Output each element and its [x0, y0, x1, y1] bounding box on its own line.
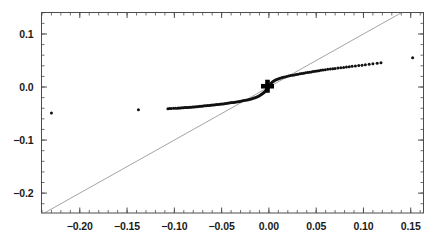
data-point-series — [50, 56, 414, 114]
x-tick-label: 0.00 — [259, 220, 279, 232]
data-point — [376, 62, 379, 65]
x-tick-label: −0.20 — [67, 220, 93, 232]
data-point — [357, 64, 360, 67]
y-tick-label: −0.1 — [0, 134, 34, 146]
data-point — [411, 56, 414, 59]
y-tick-label: −0.2 — [0, 187, 34, 199]
major-tick-marks — [42, 13, 424, 214]
data-point — [379, 61, 382, 64]
data-point — [137, 108, 140, 111]
x-tick-label: 0.10 — [353, 220, 373, 232]
data-point — [339, 66, 342, 69]
data-point — [345, 66, 348, 69]
data-point — [50, 112, 53, 115]
axes-frame-rect — [42, 13, 424, 214]
data-point — [326, 68, 329, 71]
scatter-plot-figure: −0.20−0.15−0.10−0.050.000.050.100.15 0.1… — [0, 0, 442, 243]
data-point — [354, 64, 357, 67]
x-tick-label: 0.15 — [401, 220, 421, 232]
y-tick-label: 0.0 — [0, 81, 34, 93]
x-tick-label: 0.05 — [306, 220, 326, 232]
data-point — [361, 64, 364, 67]
x-tick-label: −0.05 — [209, 220, 235, 232]
data-point — [368, 63, 371, 66]
data-point — [336, 67, 339, 70]
x-tick-label: −0.10 — [161, 220, 187, 232]
data-point — [348, 65, 351, 68]
identity-line-segment — [44, 13, 401, 214]
x-tick-label: −0.15 — [114, 220, 140, 232]
minor-tick-marks — [42, 13, 424, 214]
data-point — [342, 66, 345, 69]
data-point — [371, 62, 374, 65]
plot-canvas — [0, 0, 442, 243]
identity-reference-line — [44, 13, 401, 214]
data-point — [334, 67, 337, 70]
data-point — [364, 63, 367, 66]
plot-frame — [42, 13, 424, 214]
y-tick-label: 0.1 — [0, 28, 34, 40]
data-point — [351, 65, 354, 68]
